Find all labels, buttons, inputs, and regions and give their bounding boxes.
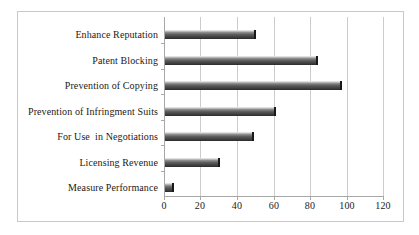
gridline-120	[383, 17, 384, 196]
y-tick-mark	[161, 120, 165, 121]
gridline-100	[347, 17, 348, 196]
x-tick-label-20: 20	[180, 200, 220, 212]
bar-patent-blocking	[165, 56, 318, 65]
category-label-measure-performance: Measure Performance	[24, 182, 158, 193]
y-tick-mark	[161, 145, 165, 146]
y-tick-mark	[161, 43, 165, 44]
category-label-for-use-in-negotiations: For Use in Negotiations	[24, 131, 158, 142]
x-tick-label-100: 100	[327, 200, 367, 212]
x-tick-label-120: 120	[363, 200, 403, 212]
bar-measure-performance	[165, 183, 174, 192]
y-tick-mark	[161, 69, 165, 70]
bar-for-use-in-negotiations	[165, 132, 254, 141]
category-label-licensing-revenue: Licensing Revenue	[24, 157, 158, 168]
y-tick-mark	[161, 94, 165, 95]
y-tick-mark	[161, 171, 165, 172]
category-label-patent-blocking: Patent Blocking	[24, 55, 158, 66]
bar-enhance-reputation	[165, 30, 256, 39]
x-tick-label-0: 0	[144, 200, 184, 212]
x-tick-label-80: 80	[290, 200, 330, 212]
gridline-80	[310, 17, 311, 196]
x-tick-label-40: 40	[217, 200, 257, 212]
x-tick-label-60: 60	[254, 200, 294, 212]
bar-prevention-of-infringment-suits	[165, 107, 276, 116]
category-label-prevention-of-infringment-suits: Prevention of Infringment Suits	[14, 106, 158, 117]
category-label-prevention-of-copying: Prevention of Copying	[24, 80, 158, 91]
chart-figure: Enhance Reputation Patent Blocking Preve…	[0, 0, 419, 235]
bar-prevention-of-copying	[165, 81, 342, 90]
bar-licensing-revenue	[165, 158, 220, 167]
category-label-enhance-reputation: Enhance Reputation	[24, 29, 158, 40]
